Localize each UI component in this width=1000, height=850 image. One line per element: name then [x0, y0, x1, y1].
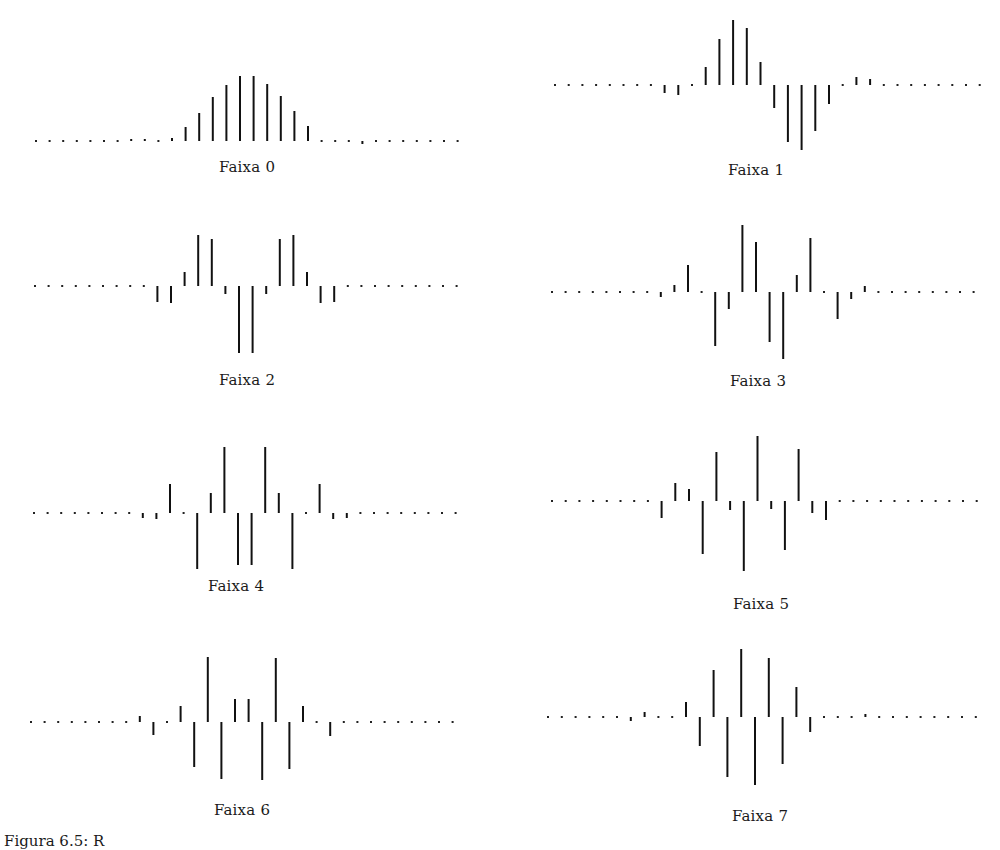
stem-point: [961, 716, 963, 718]
stem-point: [547, 716, 549, 718]
stem-point: [851, 716, 853, 718]
stem-point: [616, 716, 618, 718]
stem-point: [933, 716, 935, 718]
stem-point: [671, 716, 673, 718]
stem-point: [878, 716, 880, 718]
stem-point: [588, 716, 590, 718]
stem-point: [837, 716, 839, 718]
stem-point: [975, 716, 977, 718]
stem-point: [561, 716, 563, 718]
stem-point: [920, 716, 922, 718]
stem-point: [602, 716, 604, 718]
panel-label: Faixa 7: [732, 807, 788, 825]
stem-point: [657, 716, 659, 718]
stem-point: [575, 716, 577, 718]
stem-point: [947, 716, 949, 718]
stem-point: [892, 716, 894, 718]
stem-point: [906, 716, 908, 718]
stem-point: [823, 716, 825, 718]
figure-caption: Figura 6.5: R: [4, 832, 104, 850]
